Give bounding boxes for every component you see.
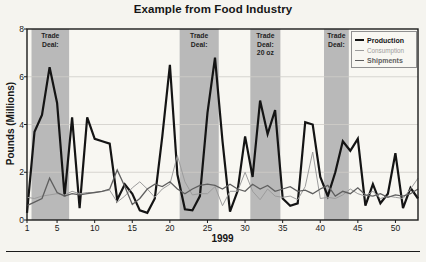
legend-item-shipments: Shipments <box>355 55 413 65</box>
x-tick-label-50: 50 <box>383 223 407 233</box>
legend-box: Production Consumption Shipments <box>351 31 417 68</box>
chart-page: Example from Food Industry Pounds (Milli… <box>0 0 426 262</box>
consumption-line-swatch-icon <box>355 50 364 51</box>
legend-item-production: Production <box>355 35 413 45</box>
x-tick-label-5: 5 <box>45 223 69 233</box>
y-tick-label-8: 8 <box>6 24 24 34</box>
shipments-line-swatch-icon <box>355 60 364 61</box>
trade-deal-label-1: Trade Deal: <box>41 32 59 49</box>
legend-label-consumption: Consumption <box>367 47 404 54</box>
x-tick-label-10: 10 <box>83 223 107 233</box>
bottom-rule <box>6 251 420 252</box>
x-tick-label-45: 45 <box>346 223 370 233</box>
x-tick-label-25: 25 <box>195 223 219 233</box>
x-tick-label-15: 15 <box>120 223 144 233</box>
legend-label-shipments: Shipments <box>367 57 403 64</box>
y-tick-label-6: 6 <box>6 72 24 82</box>
x-tick-label-40: 40 <box>308 223 332 233</box>
x-tick-label-30: 30 <box>233 223 257 233</box>
trade-deal-label-2: Trade Deal: <box>190 32 208 49</box>
production-line-swatch-icon <box>355 39 364 41</box>
y-tick-label-2: 2 <box>6 167 24 177</box>
y-tick-label-4: 4 <box>6 120 24 130</box>
trade-deal-label-3: Trade Deal: 20 oz <box>256 32 274 58</box>
x-axis-label: 1999 <box>27 233 418 244</box>
legend-item-consumption: Consumption <box>355 45 413 55</box>
trade-deal-label-4: Trade Deal: <box>327 32 345 49</box>
x-tick-label-35: 35 <box>271 223 295 233</box>
legend-label-production: Production <box>367 37 404 44</box>
x-tick-label-20: 20 <box>158 223 182 233</box>
y-tick-label-0: 0 <box>6 215 24 225</box>
